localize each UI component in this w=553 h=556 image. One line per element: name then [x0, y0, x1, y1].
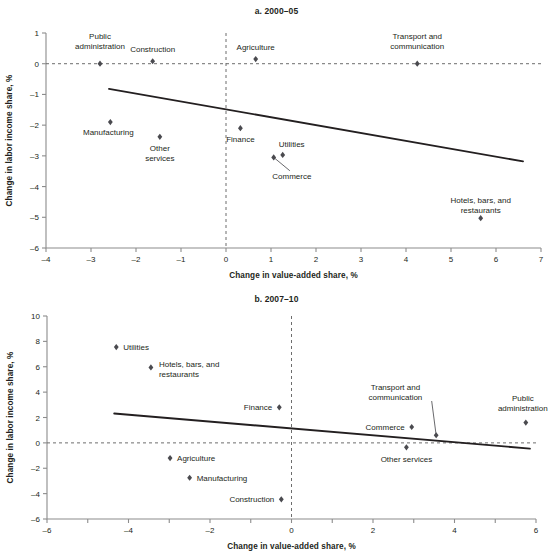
- data-point-other-services: [157, 134, 162, 140]
- data-point-label-public-administration: Public: [89, 32, 111, 41]
- data-point-utilities: [280, 152, 285, 158]
- data-point-label-construction: Construction: [130, 45, 175, 54]
- data-point-finance: [238, 125, 243, 131]
- chart-panel-a: a. 2000–05 –4–3–2–101234567–6–5–4–3–2–10…: [0, 0, 553, 285]
- chart-b-svg: –6–4–20246–6–4–20246810UtilitiesHotels, …: [0, 285, 553, 556]
- data-point-label-public-administration: administration: [75, 42, 125, 51]
- data-point-other-services: [404, 444, 409, 450]
- x-axis-tick-label: 7: [539, 255, 544, 264]
- label-leader-line: [274, 157, 290, 170]
- data-point-public-administration: [523, 419, 528, 425]
- x-axis-tick-label: 4: [404, 255, 409, 264]
- x-axis-tick-label: –1: [177, 255, 186, 264]
- data-point-label-finance: Finance: [244, 403, 273, 412]
- data-point-public-administration: [98, 61, 103, 67]
- x-axis-title: Change in value-added share, %: [227, 542, 356, 551]
- x-axis-tick-label: 6: [534, 526, 539, 535]
- data-point-label-utilities: Utilities: [123, 343, 149, 352]
- data-point-label-agriculture: Agriculture: [177, 454, 216, 463]
- y-axis-tick-label: 4: [36, 388, 41, 397]
- data-point-construction: [279, 496, 284, 502]
- y-axis-tick-label: –4: [31, 490, 40, 499]
- data-point-label-utilities: Utilities: [279, 140, 305, 149]
- data-point-label-hotels-bars-and-restaurants: Hotels, bars, and: [450, 196, 510, 205]
- y-axis-tick-label: 2: [36, 414, 41, 423]
- y-axis-tick-label: 10: [31, 312, 40, 321]
- x-axis-tick-label: 1: [269, 255, 274, 264]
- trend-line: [109, 89, 523, 161]
- x-axis-tick-label: –6: [43, 526, 52, 535]
- data-point-label-transport-and-communication: communication: [369, 393, 423, 402]
- y-axis-tick-label: 0: [35, 60, 40, 69]
- x-axis-tick-label: 2: [314, 255, 319, 264]
- data-point-hotels-bars-and-restaurants: [148, 364, 153, 370]
- x-axis-tick-label: 3: [359, 255, 364, 264]
- chart-b-plot-area: –6–4–20246–6–4–20246810UtilitiesHotels, …: [0, 285, 553, 556]
- data-point-label-manufacturing: Manufacturing: [197, 474, 248, 483]
- data-point-label-other-services: Other services: [381, 455, 433, 464]
- data-point-commerce: [409, 424, 414, 430]
- data-point-finance: [277, 404, 282, 410]
- trend-line: [114, 413, 530, 448]
- data-point-label-public-administration: administration: [498, 404, 548, 413]
- data-point-manufacturing: [108, 119, 113, 125]
- chart-panel-b: b. 2007–10 –6–4–20246–6–4–20246810Utilit…: [0, 285, 553, 556]
- x-axis-tick-label: –3: [87, 255, 96, 264]
- data-point-label-agriculture: Agriculture: [237, 43, 276, 52]
- y-axis-tick-label: 0: [36, 439, 41, 448]
- data-point-label-manufacturing: Manufacturing: [83, 128, 134, 137]
- y-axis-tick-label: –2: [30, 121, 39, 130]
- x-axis-tick-label: 4: [452, 526, 457, 535]
- y-axis-tick-label: –6: [31, 515, 40, 524]
- y-axis-tick-label: –2: [31, 464, 40, 473]
- x-axis-tick-label: 6: [494, 255, 499, 264]
- data-point-label-hotels-bars-and-restaurants: restaurants: [461, 206, 501, 215]
- x-axis-tick-label: 2: [371, 526, 376, 535]
- y-axis-title: Change in labor income share, %: [5, 74, 14, 206]
- data-point-label-other-services: Other: [150, 144, 170, 153]
- data-point-hotels-bars-and-restaurants: [478, 215, 483, 221]
- y-axis-tick-label: –1: [30, 90, 39, 99]
- data-point-label-hotels-bars-and-restaurants: Hotels, bars, and: [159, 360, 219, 369]
- y-axis-tick-label: 1: [35, 29, 40, 38]
- x-axis-tick-label: –4: [42, 255, 51, 264]
- data-point-agriculture: [253, 56, 258, 62]
- y-axis-tick-label: –5: [30, 213, 39, 222]
- x-axis-tick-label: 0: [224, 255, 229, 264]
- y-axis-tick-label: 6: [36, 363, 41, 372]
- data-point-label-transport-and-communication: Transport and: [371, 383, 421, 392]
- chart-a-svg: –4–3–2–101234567–6–5–4–3–2–101Publicadmi…: [0, 0, 553, 285]
- y-axis-title: Change in labor income share, %: [6, 351, 15, 483]
- data-point-transport-and-communication: [434, 432, 439, 438]
- y-axis-tick-label: –6: [30, 244, 39, 253]
- data-point-transport-and-communication: [415, 61, 420, 67]
- x-axis-tick-label: –2: [206, 526, 215, 535]
- data-point-label-public-administration: Public: [512, 394, 534, 403]
- y-axis-tick-label: –4: [30, 183, 39, 192]
- x-axis-tick-label: 0: [289, 526, 294, 535]
- y-axis-tick-label: –3: [30, 152, 39, 161]
- data-point-label-transport-and-communication: communication: [390, 42, 444, 51]
- x-axis-title: Change in value-added share, %: [229, 271, 358, 280]
- data-point-utilities: [114, 344, 119, 350]
- y-axis-tick-label: 8: [36, 337, 41, 346]
- data-point-label-commerce: Commerce: [272, 172, 312, 181]
- x-axis-tick-label: –2: [132, 255, 141, 264]
- data-point-label-finance: Finance: [226, 135, 255, 144]
- data-point-commerce: [271, 154, 276, 160]
- chart-a-plot-area: –4–3–2–101234567–6–5–4–3–2–101Publicadmi…: [0, 0, 553, 285]
- data-point-manufacturing: [187, 475, 192, 481]
- data-point-label-commerce: Commerce: [366, 423, 406, 432]
- x-axis-tick-label: –4: [124, 526, 133, 535]
- data-point-agriculture: [168, 455, 173, 461]
- data-point-label-construction: Construction: [229, 495, 274, 504]
- data-point-label-other-services: services: [145, 154, 174, 163]
- x-axis-tick-label: 5: [449, 255, 454, 264]
- data-point-label-transport-and-communication: Transport and: [392, 32, 442, 41]
- label-leader-line: [432, 401, 436, 435]
- data-point-label-hotels-bars-and-restaurants: restaurants: [159, 370, 199, 379]
